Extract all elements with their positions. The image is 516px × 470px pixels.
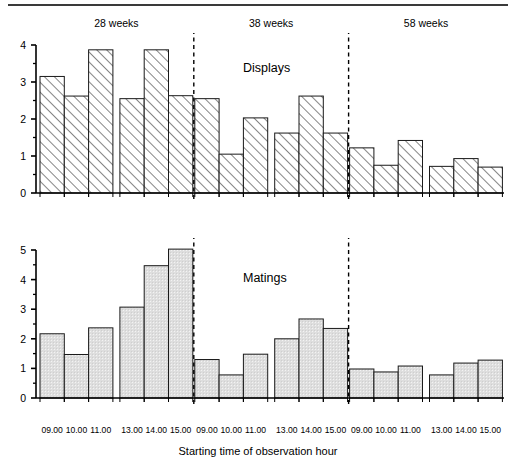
y-tick-label: 4 (4, 39, 26, 51)
bar (89, 328, 113, 398)
bar (299, 96, 323, 193)
y-tick-label: 3 (4, 76, 26, 88)
x-tick-label: 15.00 (474, 424, 506, 436)
bar (430, 375, 454, 398)
y-tick-label: 5 (4, 244, 26, 256)
group-header-1: 28 weeks (66, 16, 166, 30)
bar (299, 319, 323, 398)
y-tick-label: 0 (4, 392, 26, 404)
bar (478, 167, 502, 193)
bar (219, 375, 243, 398)
bar (398, 366, 422, 398)
matings-plot (0, 238, 516, 423)
bar (478, 360, 502, 398)
bar (374, 165, 398, 193)
bar (454, 159, 478, 193)
bar (243, 118, 267, 193)
bar (243, 354, 267, 398)
bar (64, 354, 88, 398)
panel-title-displays: Displays (243, 61, 290, 75)
bar (275, 339, 299, 398)
x-axis-tick-labels: 09.0010.0011.0013.0014.0015.0009.0010.00… (0, 424, 516, 438)
bar (64, 96, 88, 193)
bar (89, 50, 113, 193)
bar (430, 166, 454, 193)
panel-title-matings: Matings (243, 271, 287, 285)
y-tick-label: 0 (4, 187, 26, 199)
bar (323, 133, 347, 193)
figure-container: 28 weeks38 weeks58 weeks Displays 01234 … (0, 0, 516, 470)
y-tick-label: 1 (4, 362, 26, 374)
x-tick-label: 11.00 (394, 424, 426, 436)
bar (323, 328, 347, 398)
y-tick-label: 2 (4, 333, 26, 345)
y-tick-label: 2 (4, 113, 26, 125)
x-axis-title: Starting time of observation hour (0, 444, 516, 458)
bar (275, 133, 299, 193)
y-tick-label: 1 (4, 150, 26, 162)
bar (195, 360, 219, 398)
x-tick-label: 11.00 (85, 424, 117, 436)
bar (350, 369, 374, 398)
group-header-2: 38 weeks (221, 16, 321, 30)
bar (120, 99, 144, 193)
bar (454, 363, 478, 398)
bar (169, 249, 193, 398)
panel-matings: Matings 012345 (0, 238, 516, 423)
bar (350, 148, 374, 193)
bar (195, 99, 219, 193)
bar (219, 154, 243, 193)
bar (374, 372, 398, 398)
bar (144, 266, 168, 398)
x-tick-label: 11.00 (240, 424, 272, 436)
bar (398, 140, 422, 193)
bar (144, 50, 168, 193)
group-header-3: 58 weeks (376, 16, 476, 30)
bar (40, 76, 64, 193)
y-tick-label: 4 (4, 274, 26, 286)
bar (40, 334, 64, 398)
bar (169, 96, 193, 193)
bar (120, 307, 144, 398)
group-header-row: 28 weeks38 weeks58 weeks (0, 16, 516, 32)
panel-displays: Displays 01234 (0, 33, 516, 218)
y-tick-label: 3 (4, 303, 26, 315)
top-divider-rule (8, 4, 508, 6)
